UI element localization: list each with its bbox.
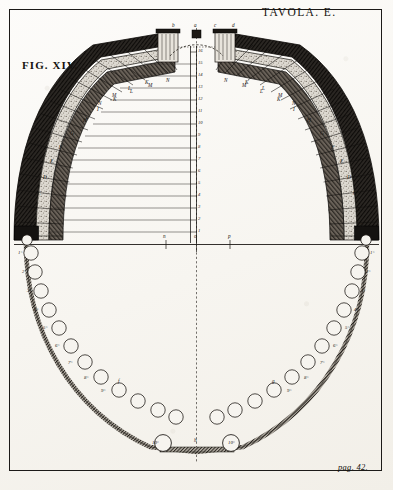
arch-joint-left-E: E <box>50 158 53 164</box>
arch-extrados-left-L: L <box>128 85 131 91</box>
scale-tick-16: 16 <box>198 48 203 53</box>
catenary-letter-left: f <box>118 378 119 384</box>
chain-label-right-1: 1° <box>370 250 374 255</box>
arch-joint-right-G: G <box>320 130 324 136</box>
axis-point-n: n <box>163 233 166 239</box>
arch-extrados-right-N: N <box>292 100 295 106</box>
scale-tick-13: 13 <box>198 84 203 89</box>
scale-tick-8: 8 <box>198 144 200 149</box>
arch-joint-left-B: B <box>33 206 36 212</box>
arch-joint-left-H: H <box>83 117 87 123</box>
arch-joint-left-G: G <box>70 130 74 136</box>
arch-extrados-left-K: K <box>145 79 148 85</box>
scale-tick-15: 15 <box>198 60 203 65</box>
chain-label-right-2: 2° <box>366 269 370 274</box>
scale-tick-9: 9 <box>198 132 200 137</box>
scale-tick-4: 4 <box>198 192 200 197</box>
catenary-letter-right: g <box>272 378 275 384</box>
chain-label-left-10: 10° <box>152 440 159 445</box>
chain-label-right-6: 6° <box>333 343 337 348</box>
arch-joint-right-A: A <box>360 222 363 228</box>
chain-label-right-5: 5° <box>345 325 349 330</box>
chain-weights-right <box>210 246 369 424</box>
chain-label-right-8: 8° <box>304 375 308 380</box>
chain-label-left-7: 7° <box>68 360 72 365</box>
plate-title: TAVOLA. E. <box>262 6 337 18</box>
axis-point-o: o <box>194 233 197 239</box>
chain-label-left-1: 1° <box>18 250 22 255</box>
arch-joint-left-A: A <box>30 222 33 228</box>
arch-joint-right-C: C <box>353 190 356 196</box>
scale-tick-11: 11 <box>198 108 202 113</box>
arch-joint-left-M: M <box>148 82 152 88</box>
arch-joint-right-F: F <box>331 144 334 150</box>
chain-weights-left <box>24 246 183 424</box>
arch-extrados-left-N: N <box>98 100 101 106</box>
arch-joint-left-I: I <box>97 106 99 112</box>
scale-tick-2: 2 <box>198 216 200 221</box>
arch-joint-right-D: D <box>347 174 351 180</box>
figure-drawing <box>0 0 393 490</box>
chain-label-right-9: 9° <box>287 388 291 393</box>
engraving-plate: TAVOLA. E. FIG. XIV. pag. 42. 1615141312… <box>0 0 393 490</box>
scale-tick-10: 10 <box>198 120 203 125</box>
chain-label-left-2: 2° <box>22 269 26 274</box>
arch-joint-right-I: I <box>293 106 295 112</box>
axis-ticks <box>166 236 230 252</box>
arch-joint-left-F: F <box>59 144 62 150</box>
chain-label-right-3: 3° <box>361 288 365 293</box>
arch-joint-right-N: N <box>224 77 227 83</box>
scale-tick-3: 3 <box>198 204 200 209</box>
arch-joint-right-H: H <box>307 117 311 123</box>
chain-label-right-4: 4° <box>354 307 358 312</box>
figure-label: FIG. XIV. <box>22 59 78 71</box>
scale-tick-6: 6 <box>198 168 200 173</box>
top-point-b: b <box>172 22 175 28</box>
arch-joint-left-N: N <box>166 77 169 83</box>
arch-joint-left-C: C <box>37 190 40 196</box>
arch-joint-right-B: B <box>357 206 360 212</box>
chain-label-right-10: 10° <box>228 440 235 445</box>
chain-label-left-6: 6° <box>55 343 59 348</box>
arch-extrados-left-M: M <box>112 92 116 98</box>
chain-label-left-3: 3° <box>27 288 31 293</box>
scale-tick-5: 5 <box>198 180 200 185</box>
top-point-d: d <box>232 22 235 28</box>
chain-bottom-segment <box>160 447 234 452</box>
arch-extrados-right-L: L <box>262 85 265 91</box>
scale-tick-12: 12 <box>198 96 203 101</box>
chain-label-left-9: 9° <box>101 388 105 393</box>
arch-section-right <box>216 31 379 240</box>
chain-label-left-5: 5° <box>43 325 47 330</box>
top-point-c: c <box>214 22 216 28</box>
axis-point-p: p <box>228 233 231 239</box>
catenary-bottom-label: h <box>194 437 197 443</box>
arch-joint-left-D: D <box>43 174 47 180</box>
scale-tick-14: 14 <box>198 72 203 77</box>
scale-tick-1: 1 <box>198 228 200 233</box>
chain-label-right-7: 7° <box>320 360 324 365</box>
page-reference: pag. 42. <box>338 462 368 472</box>
chain-label-left-8: 8° <box>84 375 88 380</box>
top-point-a: a <box>194 22 197 28</box>
chain-label-left-4: 4° <box>34 307 38 312</box>
arch-extrados-right-K: K <box>245 79 248 85</box>
arch-extrados-right-M: M <box>278 92 282 98</box>
arch-joint-right-E: E <box>340 158 343 164</box>
scale-tick-7: 7 <box>198 156 200 161</box>
